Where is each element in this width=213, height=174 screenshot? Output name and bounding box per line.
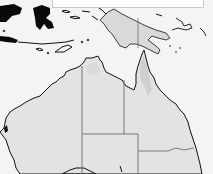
map-top-bar — [52, 0, 204, 8]
map-view[interactable] — [0, 0, 213, 174]
map-canvas[interactable] — [0, 0, 213, 174]
